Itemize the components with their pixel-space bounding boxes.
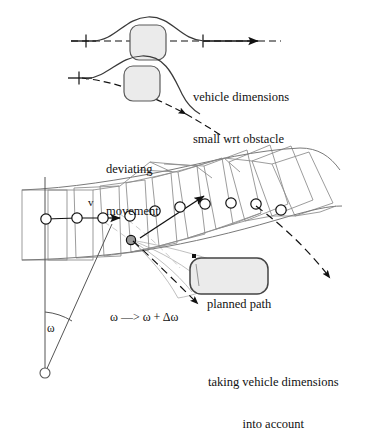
obstacle-contact-node xyxy=(192,254,196,258)
velocity-label: v xyxy=(88,196,94,208)
omega-ray xyxy=(45,224,112,373)
omega-angle-label: ω xyxy=(47,322,55,335)
panel-top-pass xyxy=(71,17,281,60)
panel-main-swath xyxy=(22,145,342,378)
note-vehicle-dimensions-line2: small wrt obstacle xyxy=(193,132,289,146)
omega-apex-marker xyxy=(40,368,50,378)
note-deviating-movement: deviating movement xyxy=(106,134,159,246)
figure-caption: taking vehicle dimensions into account xyxy=(208,347,339,432)
figure-caption-line2: into account xyxy=(208,417,339,431)
obstacle-main xyxy=(190,258,268,294)
note-deviating-movement-line1: deviating xyxy=(106,162,159,176)
obstacle-second xyxy=(124,66,160,101)
note-vehicle-dimensions: vehicle dimensions small wrt obstacle xyxy=(193,62,289,174)
planned-path-label: planned path xyxy=(207,297,271,311)
obstacle-top xyxy=(130,25,166,60)
omega-arc xyxy=(45,312,72,321)
note-deviating-movement-line2: movement xyxy=(106,204,159,218)
figure-caption-line1: taking vehicle dimensions xyxy=(208,375,339,389)
omega-update-formula: ω —> ω + Δω xyxy=(110,311,178,324)
note-vehicle-dimensions-line1: vehicle dimensions xyxy=(193,90,289,104)
planned-path-main xyxy=(133,241,198,304)
